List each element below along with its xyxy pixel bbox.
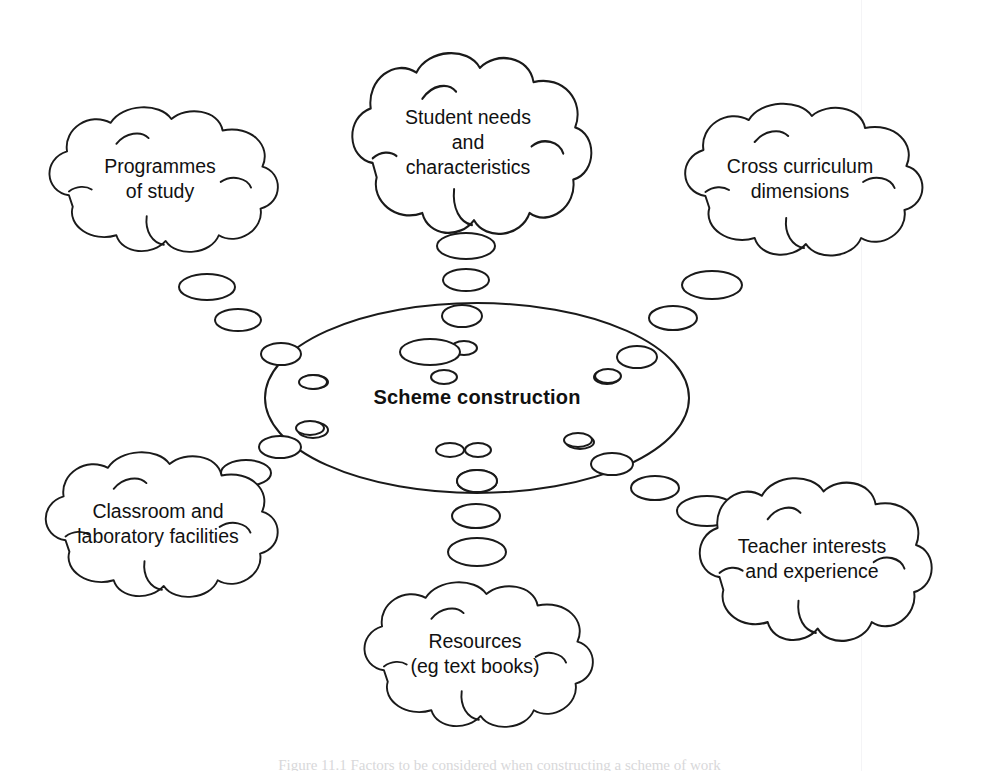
figure-caption: Figure 11.1 Factors to be considered whe… [0, 757, 999, 771]
trail-bubble [259, 436, 301, 458]
trail-bubble [595, 369, 621, 383]
cloud-label-line: Student needs [405, 106, 531, 128]
hub-label: Scheme construction [373, 386, 580, 408]
trail-bubble [591, 453, 633, 475]
cloud-label-line: of study [126, 180, 195, 202]
trail-bubble [436, 443, 464, 457]
trail-bubble [431, 370, 457, 384]
trail-bubble [452, 504, 500, 528]
trail-bubble [564, 433, 592, 447]
trail-bubble [457, 470, 497, 492]
cloud-label-line: Cross curriculum [727, 155, 873, 177]
trail-bubble [215, 309, 261, 331]
cloud-label-line: laboratory facilities [77, 525, 239, 547]
cloud-node-cross-curriculum-dimensions: Cross curriculumdimensions [685, 104, 922, 256]
trail-bubble [448, 538, 506, 566]
diagram-page: Scheme construction Programmesof studySt… [0, 0, 999, 771]
cloud-node-resources: Resources(eg text books) [364, 582, 592, 727]
trail-bubble [443, 269, 489, 291]
cloud-node-programmes-of-study: Programmesof study [49, 107, 277, 252]
cloud-node-student-needs: Student needsandcharacteristics [352, 53, 591, 234]
cloud-node-teacher-interests: Teacher interestsand experience [700, 478, 932, 641]
trail-bubble [437, 233, 495, 259]
cloud-label-line: Classroom and [92, 500, 223, 522]
trail-bubble [400, 339, 460, 365]
cloud-label-line: characteristics [406, 156, 531, 178]
trail-bubble [631, 476, 679, 500]
trail-bubble [299, 375, 327, 389]
trail-bubble [617, 346, 657, 368]
cloud-label-line: Programmes [104, 155, 216, 177]
concept-map-svg: Scheme construction Programmesof studySt… [0, 0, 999, 771]
trail-bubble [682, 271, 742, 299]
cloud-label-line: dimensions [751, 180, 850, 202]
cloud-label-line: and [452, 131, 485, 153]
cloud-label-line: (eg text books) [411, 655, 540, 677]
trail-bubble [465, 443, 491, 457]
trail-bubble [179, 274, 235, 300]
cloud-label-line: Resources [428, 630, 521, 652]
cloud-label-line: and experience [745, 560, 878, 582]
trail-bubble [296, 421, 324, 435]
trail-bubble [442, 305, 482, 327]
trail-bubble [649, 306, 697, 330]
trail-bubble [261, 343, 301, 365]
cloud-label-line: Teacher interests [738, 535, 887, 557]
